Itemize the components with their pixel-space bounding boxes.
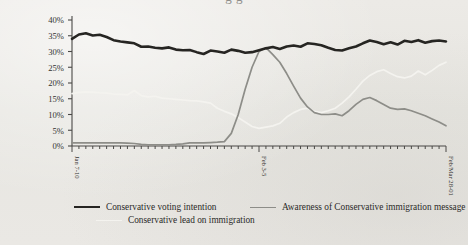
black-line-swatch-icon <box>74 206 100 208</box>
series-lines <box>72 33 446 145</box>
legend-label-awareness: Awareness of Conservative immigration me… <box>282 202 466 212</box>
legend-label-immigration-lead: Conservative lead on immigration <box>128 215 255 225</box>
y-axis-tick-label: 5% <box>53 126 64 136</box>
series-line <box>72 48 446 145</box>
x-axis-tick-label: Jan 7-10 <box>74 156 81 179</box>
title-descender-text: g g <box>225 0 243 1</box>
y-axis-tick-label: 35% <box>48 31 64 41</box>
line-chart: 0%5%10%15%20%25%30%35%40% Jan 7-10Feb 3-… <box>0 8 468 200</box>
y-axis-tick-label: 0% <box>53 141 64 151</box>
y-axis-tick-label: 20% <box>48 78 64 88</box>
x-axis-tick-label: Feb/Mar 28-01 <box>448 156 455 196</box>
series-line <box>72 62 446 128</box>
x-axis <box>72 146 446 152</box>
legend-item-immigration-lead: Conservative lead on immigration <box>96 215 255 225</box>
y-axis: 0%5%10%15%20%25%30%35%40% <box>48 15 72 151</box>
y-axis-tick-label: 30% <box>48 47 64 57</box>
chart-legend: Conservative voting intention Awareness … <box>0 199 468 239</box>
legend-item-voting-intention: Conservative voting intention <box>74 202 217 212</box>
series-line <box>72 33 446 54</box>
gray-line-swatch-icon <box>250 207 276 208</box>
y-axis-tick-label: 15% <box>48 94 64 104</box>
x-axis-labels: Jan 7-10Feb 3-5Feb/Mar 28-01 <box>74 156 455 196</box>
y-axis-tick-label: 10% <box>48 110 64 120</box>
y-axis-tick-label: 25% <box>48 63 64 73</box>
chart-canvas: 0%5%10%15%20%25%30%35%40% Jan 7-10Feb 3-… <box>0 8 468 200</box>
y-axis-tick-label: 40% <box>48 15 64 25</box>
legend-label-voting-intention: Conservative voting intention <box>106 202 217 212</box>
legend-item-awareness: Awareness of Conservative immigration me… <box>250 202 466 212</box>
white-line-swatch-icon <box>96 220 122 221</box>
x-axis-tick-label: Feb 3-5 <box>261 156 268 177</box>
